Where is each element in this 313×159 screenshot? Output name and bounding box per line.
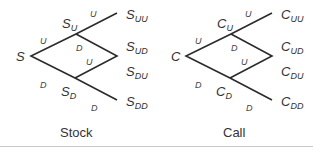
stock-edge-ud: D <box>76 44 83 53</box>
stock-down-node: SD <box>61 85 76 101</box>
call-leaf-uu: CUU <box>281 8 303 24</box>
stock-edge-du: U <box>86 58 93 67</box>
stock-root-label: S <box>16 50 25 63</box>
call-edge-dd: D <box>246 104 253 113</box>
stock-leaf-ud: SUD <box>126 40 148 56</box>
stock-edge-down: D <box>40 81 47 90</box>
stock-leaf-du: SDU <box>126 65 148 81</box>
call-edge-down: D <box>195 81 202 90</box>
stock-edge-uu: U <box>90 10 97 19</box>
call-up-node: CU <box>217 17 233 33</box>
call-edge-du: U <box>241 58 248 67</box>
call-leaf-dd: CDD <box>281 95 303 111</box>
call-leaf-ud: CUD <box>281 40 303 56</box>
call-edge-up: U <box>195 37 202 46</box>
call-caption: Call <box>223 126 245 139</box>
call-root-label: C <box>171 50 180 63</box>
stock-caption: Stock <box>60 126 93 139</box>
call-down-node: CD <box>216 85 232 101</box>
stock-leaf-dd: SDD <box>126 95 148 111</box>
call-leaf-du: CDU <box>281 65 303 81</box>
stock-edge-dd: D <box>91 104 98 113</box>
stock-edge-up: U <box>40 37 47 46</box>
call-edge-uu: U <box>245 10 252 19</box>
stock-leaf-uu: SUU <box>126 8 148 24</box>
stock-up-node: SU <box>62 17 77 33</box>
bottom-divider <box>0 146 313 147</box>
call-edge-ud: D <box>231 44 238 53</box>
